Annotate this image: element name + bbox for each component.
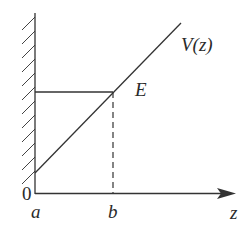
potential-diagram: 0 a b z E V(z) (0, 0, 252, 226)
energy-label: E (134, 79, 147, 100)
z-axis-label: z (229, 202, 238, 223)
b-label: b (108, 201, 118, 222)
wall-hatching (22, 17, 35, 184)
potential-line (35, 23, 181, 173)
a-label: a (31, 201, 41, 222)
potential-label: V(z) (181, 34, 213, 56)
